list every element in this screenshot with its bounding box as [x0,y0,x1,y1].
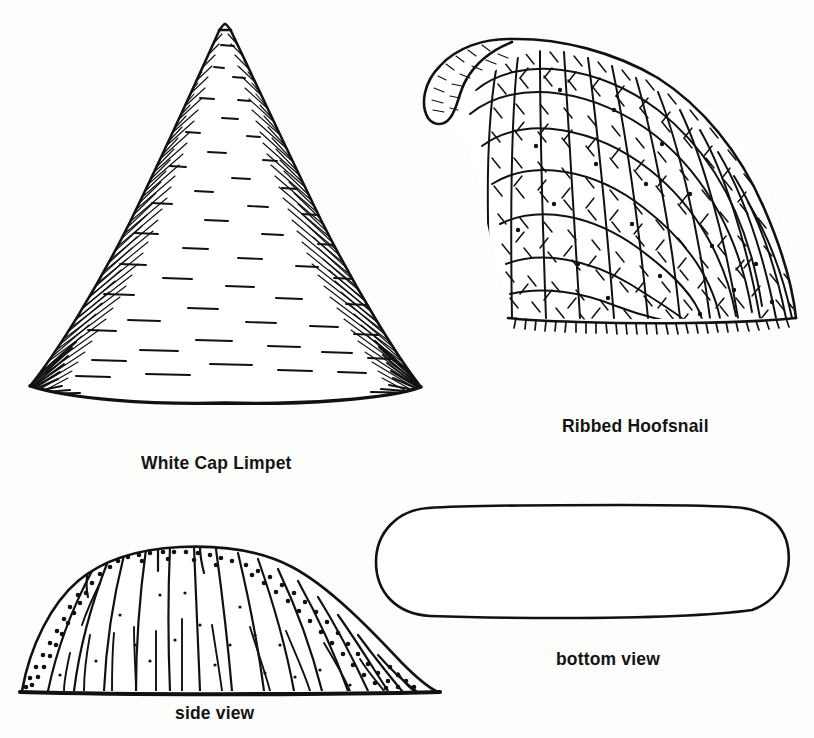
caption-ribbed-hoofsnail: Ribbed Hoofsnail [562,415,709,437]
illustration-plate: White Cap Limpet Ribbed Hoofsnail side v… [0,0,814,738]
figure-bottom-view [360,492,810,632]
side-view-baseline [20,692,440,694]
caption-bottom-view: bottom view [556,648,660,670]
caption-white-cap-limpet: White Cap Limpet [141,452,292,474]
figure-white-cap-limpet [0,0,450,420]
bottom-view-fill [376,506,789,618]
limpet-body-fill [30,24,421,402]
figure-ribbed-hoofsnail [400,18,814,348]
caption-side-view: side view [175,702,254,724]
